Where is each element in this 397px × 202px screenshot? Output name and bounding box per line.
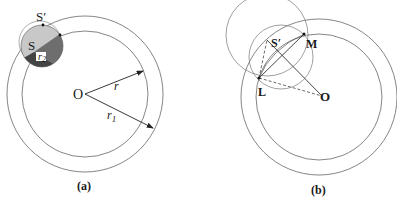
label-r1: r1	[107, 108, 116, 124]
radius-r1-arrow	[85, 94, 153, 128]
label-s-prime: S′	[271, 36, 281, 50]
point-m	[303, 33, 306, 36]
inner-orbit-circle	[256, 34, 382, 160]
diagram-canvas: S′ S r2 O r r1 (a) S′ M L O (b)	[0, 0, 397, 202]
label-m: M	[306, 37, 317, 51]
label-l: L	[258, 85, 266, 99]
caption-a: (a)	[77, 179, 91, 193]
point-s-prime	[42, 24, 45, 27]
label-s-prime: S′	[36, 9, 46, 24]
label-s: S	[28, 38, 35, 53]
panel-a: S′ S r2 O r r1 (a)	[7, 9, 163, 193]
point-on-inner	[59, 34, 62, 37]
caption-b: (b)	[311, 183, 326, 197]
label-r: r	[114, 79, 119, 93]
label-o: O	[320, 89, 330, 104]
panel-b: S′ M L O (b)	[226, 0, 397, 197]
label-o: O	[73, 87, 83, 102]
point-l	[258, 77, 261, 80]
